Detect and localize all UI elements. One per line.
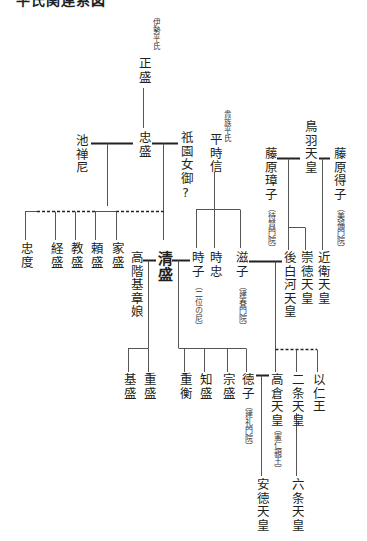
person-nijo: 二条天皇 xyxy=(290,373,303,427)
person-takakura-note: （憲仁親王） xyxy=(272,425,281,473)
person-toba: 鳥羽天皇 xyxy=(303,120,316,174)
person-kiyomori: 清盛 xyxy=(156,251,172,282)
person-ikenozenni: 池禅尼 xyxy=(74,134,87,175)
clan-label-ise-heishi: 伊勢平氏 xyxy=(151,18,159,50)
person-tokuko-note: （建礼門院） xyxy=(243,402,252,450)
person-tsunemori: 経盛 xyxy=(49,242,62,269)
person-tokuko: 徳子 xyxy=(240,373,253,400)
person-tokushi-note: （美福門院） xyxy=(335,204,344,252)
person-tadanori: 忠度 xyxy=(19,242,32,269)
person-shigeko-note: （建春門院） xyxy=(237,282,246,330)
clan-label-kizoku-heishi: 貴族平氏 xyxy=(222,110,230,142)
person-tokiko: 時子 xyxy=(190,251,203,278)
person-sutoku: 崇徳天皇 xyxy=(299,251,312,305)
person-masamori: 正盛 xyxy=(137,57,150,84)
person-tokushi: 藤原得子 xyxy=(332,147,345,201)
person-goshirakawa: 後白河天皇 xyxy=(282,251,295,319)
person-konoe: 近衛天皇 xyxy=(316,251,329,305)
person-tokinobu: 平時信 xyxy=(208,133,221,174)
person-shigehira: 重衡 xyxy=(178,373,191,400)
person-rokujo: 六条天皇 xyxy=(290,478,303,532)
person-norimori: 教盛 xyxy=(69,242,82,269)
person-tokitada: 時忠 xyxy=(208,251,221,278)
person-motomori: 基盛 xyxy=(122,373,135,400)
person-takakura: 高倉天皇 xyxy=(269,373,282,427)
person-tadamori: 忠盛 xyxy=(137,131,150,158)
person-shoshi-note: （待賢門院） xyxy=(266,204,275,252)
person-tokiko-note: （二位の尼） xyxy=(193,282,202,330)
person-mochihito: 以仁王 xyxy=(311,373,324,414)
person-gion-nyogo: 祇園女御? xyxy=(179,131,192,201)
person-antoku: 安徳天皇 xyxy=(255,478,268,532)
person-shoshi: 藤原璋子 xyxy=(263,147,276,201)
person-yorimori: 頼盛 xyxy=(89,242,102,269)
person-shigeko: 滋子 xyxy=(234,251,247,278)
person-munemori: 宗盛 xyxy=(221,373,234,400)
person-takashina: 高階基章娘 xyxy=(129,251,142,319)
person-iemori: 家盛 xyxy=(110,242,123,269)
person-shigemori: 重盛 xyxy=(142,373,155,400)
person-tomomori: 知盛 xyxy=(198,373,211,400)
